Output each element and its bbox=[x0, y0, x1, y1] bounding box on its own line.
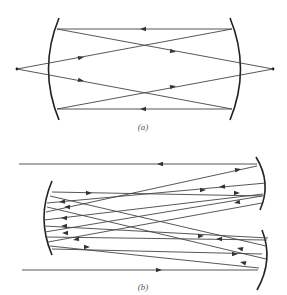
left-mirror-b bbox=[44, 181, 52, 255]
panel-b bbox=[19, 157, 268, 290]
panel-a bbox=[16, 18, 275, 120]
right-mirror-a bbox=[230, 18, 241, 120]
ray-diag3-a bbox=[17, 69, 232, 109]
optics-figure bbox=[0, 0, 287, 295]
ray-diag4-a bbox=[57, 69, 273, 109]
caption-a: (a) bbox=[123, 122, 163, 132]
left-mirror-a bbox=[49, 18, 60, 120]
caption-b: (b) bbox=[123, 282, 163, 292]
ray-diag2-a bbox=[17, 29, 232, 69]
ray-diag1-a bbox=[57, 29, 273, 69]
arrowheads-a bbox=[78, 27, 177, 111]
right-lower-mirror-b bbox=[257, 230, 267, 290]
